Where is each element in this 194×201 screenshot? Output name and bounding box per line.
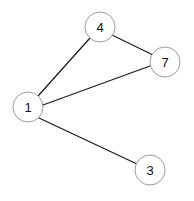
graph-node-7[interactable]: 7 bbox=[150, 47, 180, 77]
edge-layer bbox=[38, 35, 153, 164]
graph-node-label-1: 1 bbox=[24, 100, 31, 115]
graph-edge-4-7 bbox=[112, 35, 153, 55]
graph-node-1[interactable]: 1 bbox=[13, 92, 43, 122]
graph-diagram: 4713 bbox=[0, 0, 194, 201]
graph-canvas: 4713 bbox=[0, 0, 194, 201]
graph-edge-1-3 bbox=[39, 118, 137, 164]
graph-node-3[interactable]: 3 bbox=[135, 155, 165, 185]
graph-node-label-7: 7 bbox=[161, 55, 168, 70]
graph-node-label-4: 4 bbox=[96, 20, 103, 35]
graph-node-4[interactable]: 4 bbox=[85, 12, 115, 42]
graph-edge-1-4 bbox=[38, 38, 90, 96]
node-layer: 4713 bbox=[13, 12, 180, 185]
graph-node-label-3: 3 bbox=[146, 163, 153, 178]
